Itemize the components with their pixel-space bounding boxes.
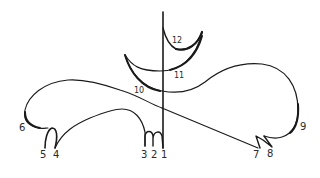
label-1: 1	[161, 149, 167, 160]
label-12: 12	[172, 36, 182, 45]
label-4: 4	[53, 149, 59, 160]
label-7: 7	[253, 149, 259, 160]
label-9: 9	[300, 121, 306, 132]
curve-9-thick	[290, 104, 298, 133]
diagram-svg: 1 2 3 4 5 6 7 8 9 10 11 12	[0, 0, 320, 178]
label-2: 2	[151, 149, 157, 160]
label-3: 3	[141, 149, 147, 160]
inner-arch	[55, 109, 145, 148]
label-11: 11	[174, 71, 184, 80]
line-figure-diagram: 1 2 3 4 5 6 7 8 9 10 11 12	[0, 0, 320, 178]
diagonal-line-to-7	[162, 108, 258, 148]
curve-10-right-lobe	[125, 55, 298, 138]
label-5: 5	[40, 149, 46, 160]
curve-6-thick	[25, 112, 40, 128]
label-6: 6	[19, 122, 25, 133]
feet-3-2-1	[145, 132, 163, 149]
claw-5-4	[45, 128, 57, 148]
label-8: 8	[267, 148, 273, 159]
curve-12	[163, 28, 202, 50]
label-10: 10	[134, 86, 144, 95]
